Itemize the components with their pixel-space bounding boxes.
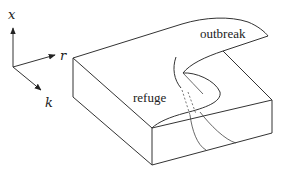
box-bottom-left-edge	[73, 97, 152, 165]
outbreak-label: outbreak	[200, 26, 246, 41]
upper-sheet-front-edge	[183, 36, 268, 73]
bifurcation-curve-right	[200, 112, 236, 143]
bifurcation-curve-left	[190, 115, 206, 150]
k-axis-label: k	[45, 95, 53, 110]
box-bottom-right-edge	[152, 133, 272, 165]
x-axis-label: x	[8, 7, 16, 22]
r-axis-arrow	[13, 55, 55, 67]
upper-sheet-right-edge	[223, 51, 272, 100]
axes-triad: x r k	[8, 7, 67, 110]
r-axis-label: r	[60, 48, 67, 63]
fold-lip-curve	[174, 57, 181, 88]
cusp-diagram: x r k outbreak refuge	[0, 0, 283, 176]
refuge-label: refuge	[133, 90, 166, 105]
k-axis-arrow	[13, 67, 41, 90]
box-base	[73, 58, 272, 165]
